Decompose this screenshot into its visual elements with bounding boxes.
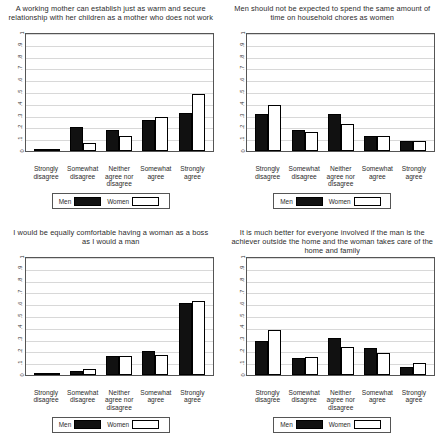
y-axis-tick-label: .7 [9, 288, 23, 296]
y-axis-tick-label: .8 [230, 276, 244, 284]
y-axis-tick-label: .4 [230, 323, 244, 331]
chart-title: A working mother can establish just as w… [8, 4, 213, 32]
plot-frame [246, 33, 435, 152]
x-axis-category-label: Strongly disagree [250, 165, 286, 188]
x-axis-category-label: Strongly disagree [250, 389, 286, 412]
x-axis-category-label: Neither agree nor disagree [101, 389, 137, 412]
legend-swatch-men-icon [74, 420, 101, 429]
y-axis-tick-label: .7 [230, 64, 244, 72]
bar-group [142, 258, 168, 375]
bar-men [328, 114, 341, 151]
bar-women [119, 136, 132, 151]
legend-label-women: Women [107, 421, 129, 428]
x-axis-category-label: Neither agree nor disagree [323, 389, 359, 412]
bar-men [364, 348, 377, 374]
y-axis-tick-label: .8 [230, 53, 244, 61]
y-axis-tick-label: 1 [9, 253, 23, 261]
y-axis: 1.9.8.7.6.5.4.3.2.10 [229, 257, 245, 376]
x-axis-category-label: Somewhat agree [359, 389, 395, 412]
bar-series [26, 34, 213, 151]
bar-men [400, 141, 413, 151]
bar-group [292, 34, 318, 151]
y-axis-tick-label: .6 [230, 300, 244, 308]
legend-label-men: Men [280, 421, 292, 428]
bar-group [34, 34, 60, 151]
bar-group [70, 258, 96, 375]
y-axis-tick-label: .5 [230, 88, 244, 96]
chart-legend: Men Women [52, 193, 170, 209]
bar-men [106, 130, 119, 151]
bar-women [47, 149, 60, 151]
bar-group [364, 258, 390, 375]
bar-men [292, 130, 305, 151]
y-axis-tick-label: .2 [230, 347, 244, 355]
bar-group [106, 34, 132, 151]
plot-area: 1.9.8.7.6.5.4.3.2.10 [229, 257, 435, 389]
y-axis-tick-label: .6 [230, 76, 244, 84]
legend-item-men: Men [59, 197, 101, 206]
bar-group [292, 258, 318, 375]
bar-women [192, 94, 205, 151]
bar-men [70, 127, 83, 151]
y-axis: 1.9.8.7.6.5.4.3.2.10 [8, 257, 24, 376]
y-axis-tick-label: 1 [230, 29, 244, 37]
x-axis-category-label: Strongly agree [396, 165, 432, 188]
legend-label-women: Women [329, 421, 351, 428]
y-axis-tick-label: .9 [230, 41, 244, 49]
y-axis-tick-label: .9 [230, 264, 244, 272]
y-axis: 1.9.8.7.6.5.4.3.2.10 [8, 33, 24, 152]
x-axis-labels: Strongly disagreeSomewhat disagreeNeithe… [8, 165, 214, 191]
bar-group [34, 258, 60, 375]
x-axis-category-label: Neither agree nor disagree [323, 165, 359, 188]
bar-women [413, 141, 426, 151]
x-axis-category-label: Strongly disagree [28, 389, 64, 412]
x-axis-category-label: Somewhat disagree [65, 389, 101, 412]
y-axis-tick-label: .2 [9, 347, 23, 355]
chart-legend: Men Women [273, 417, 391, 433]
y-axis-tick-label: .5 [9, 312, 23, 320]
legend-label-men: Men [280, 198, 292, 205]
y-axis-tick-label: 1 [230, 253, 244, 261]
chart-legend: Men Women [273, 193, 391, 209]
y-axis-tick-label: .1 [9, 135, 23, 143]
legend-swatch-women-icon [132, 197, 159, 206]
category-row: Strongly disagreeSomewhat disagreeNeithe… [25, 389, 214, 412]
chart-panel-2: Men should not be expected to spend the … [222, 0, 443, 224]
y-axis-tick-label: .3 [230, 112, 244, 120]
bar-group [179, 34, 205, 151]
y-axis-tick-label: .5 [230, 312, 244, 320]
y-axis-tick-label: .2 [230, 123, 244, 131]
category-row: Strongly disagreeSomewhat disagreeNeithe… [246, 389, 435, 412]
legend-swatch-women-icon [354, 197, 381, 206]
bar-women [305, 357, 318, 375]
bar-group [364, 34, 390, 151]
bar-series [26, 258, 213, 375]
category-row: Strongly disagreeSomewhat disagreeNeithe… [25, 165, 214, 188]
x-axis-category-label: Somewhat agree [138, 165, 174, 188]
bar-group [70, 34, 96, 151]
bar-women [83, 143, 96, 151]
chart-panel-4: It is much better for everyone involved … [222, 224, 443, 447]
bar-group [142, 34, 168, 151]
plot-frame [246, 257, 435, 376]
y-axis-tick-label: .8 [9, 276, 23, 284]
x-axis-category-label: Strongly agree [174, 389, 210, 412]
bar-women [268, 330, 281, 374]
bar-men [34, 149, 47, 151]
x-axis-labels: Strongly disagreeSomewhat disagreeNeithe… [229, 165, 435, 191]
y-axis-tick-label: 0 [230, 147, 244, 155]
y-axis-tick-label: .3 [9, 112, 23, 120]
legend-item-men: Men [280, 420, 322, 429]
y-axis-tick-label: .8 [9, 53, 23, 61]
bar-group [179, 258, 205, 375]
bar-men [106, 356, 119, 374]
legend-label-women: Women [329, 198, 351, 205]
bar-men [179, 303, 192, 374]
x-axis-category-label: Strongly disagree [28, 165, 64, 188]
legend-item-men: Men [59, 420, 101, 429]
bar-men [142, 351, 155, 375]
chart-title: I would be equally comfortable having a … [8, 228, 213, 256]
bar-men [328, 338, 341, 375]
chart-title: It is much better for everyone involved … [230, 228, 435, 256]
legend-item-women: Women [329, 197, 381, 206]
